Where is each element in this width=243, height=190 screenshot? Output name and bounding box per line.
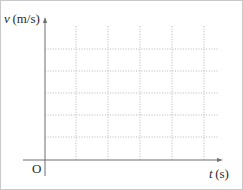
x-axis-arrowhead: [217, 158, 223, 162]
axes: [23, 17, 223, 176]
horizontal-gridlines: [45, 49, 219, 137]
x-axis-label: t (s): [209, 167, 229, 180]
figure-container: v (m/s) t (s) O: [0, 0, 243, 190]
y-axis-label: v (m/s): [4, 12, 40, 25]
y-axis-unit: (m/s): [12, 11, 39, 26]
x-axis-unit: (s): [215, 166, 229, 181]
origin-label: O: [32, 162, 41, 175]
y-axis-arrowhead: [43, 17, 47, 23]
